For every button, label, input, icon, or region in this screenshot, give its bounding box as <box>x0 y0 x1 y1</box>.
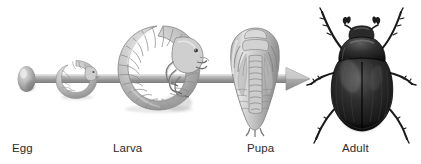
life-cycle-figure: Egg Larva Pupa Adult <box>0 0 421 164</box>
beetle-pupa-illustration <box>231 28 280 137</box>
stage-label-adult: Adult <box>342 142 369 155</box>
life-cycle-illustration <box>0 0 421 164</box>
beetle-grub-large-illustration <box>118 26 209 113</box>
stage-label-larva: Larva <box>113 142 142 155</box>
beetle-adult-illustration <box>307 8 416 143</box>
stage-label-egg: Egg <box>12 142 33 155</box>
beetle-egg-illustration <box>18 66 36 92</box>
stage-label-pupa: Pupa <box>247 142 274 155</box>
